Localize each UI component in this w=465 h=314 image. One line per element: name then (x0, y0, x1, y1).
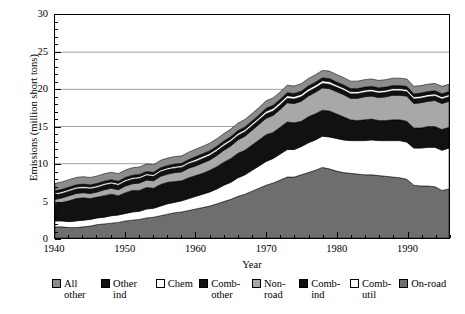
x-tick-label: 1970 (242, 243, 290, 254)
legend-label: Comb-util (362, 278, 391, 300)
y-tick-label: 30 (18, 8, 48, 19)
legend-label: Comb-ind (311, 278, 340, 300)
legend-label: On-road (411, 278, 446, 289)
legend-label-line1: Comb- (211, 278, 240, 289)
axis-tick (450, 235, 451, 238)
legend-swatch-icon (101, 279, 110, 288)
legend-item[interactable]: Comb-ind (299, 278, 350, 300)
chart-legend: AllotherOtherindChemComb-otherNon-roadCo… (52, 278, 452, 300)
y-axis-title: Emissions (million short tons) (28, 23, 39, 213)
legend-label-line1: Comb- (311, 278, 340, 289)
x-tick-label: 1990 (384, 243, 432, 254)
emissions-stacked-area-figure: 051015202530 194019501960197019801990 Em… (0, 0, 465, 314)
plot-area (54, 14, 450, 239)
legend-label-line1: All (64, 278, 77, 289)
legend-swatch-icon (350, 279, 359, 288)
y-tick-label: 0 (18, 233, 48, 244)
legend-swatch-icon (52, 279, 61, 288)
legend-item[interactable]: On-road (399, 278, 452, 289)
legend-label-line2: other (64, 289, 86, 300)
legend-label: Chem (168, 278, 193, 289)
legend-swatch-icon (156, 279, 165, 288)
legend-label-line2: ind (311, 289, 340, 300)
legend-swatch-icon (252, 279, 261, 288)
legend-item[interactable]: Non-road (252, 278, 299, 300)
legend-label: Non-road (264, 278, 286, 300)
legend-label-line1: Other (113, 278, 137, 289)
x-tick-label: 1960 (171, 243, 219, 254)
legend-swatch-icon (199, 279, 208, 288)
legend-swatch-icon (399, 279, 408, 288)
legend-label-line2: road (264, 289, 286, 300)
x-tick-label: 1950 (101, 243, 149, 254)
legend-swatch-icon (299, 279, 308, 288)
legend-item[interactable]: Chem (156, 278, 199, 289)
legend-label-line2: util (362, 289, 391, 300)
x-axis-title: Year (54, 259, 450, 270)
legend-label: Otherind (113, 278, 137, 300)
legend-label-line1: Chem (168, 278, 193, 289)
x-tick-label: 1980 (313, 243, 361, 254)
stacked-area-svg (55, 15, 449, 238)
legend-item[interactable]: Allother (52, 278, 101, 300)
legend-item[interactable]: Comb-util (350, 278, 399, 300)
axis-tick (55, 239, 61, 240)
legend-item[interactable]: Otherind (101, 278, 156, 300)
x-tick-label: 1940 (30, 243, 78, 254)
legend-label-line1: On-road (411, 278, 446, 289)
legend-label: Comb-other (211, 278, 240, 300)
legend-label: Allother (64, 278, 86, 300)
legend-label-line2: ind (113, 289, 137, 300)
legend-item[interactable]: Comb-other (199, 278, 252, 300)
legend-label-line1: Comb- (362, 278, 391, 289)
legend-label-line2: other (211, 289, 240, 300)
legend-label-line1: Non- (264, 278, 286, 289)
